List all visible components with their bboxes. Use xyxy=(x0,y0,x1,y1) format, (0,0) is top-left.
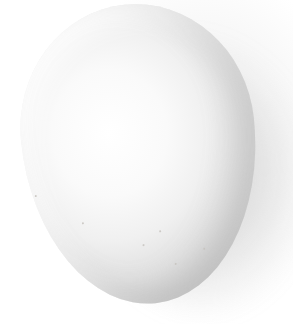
egg-speck xyxy=(82,222,84,224)
egg-speck xyxy=(203,248,205,250)
egg-speck xyxy=(142,244,144,246)
egg-speck xyxy=(35,195,37,197)
photo-scene xyxy=(0,0,293,324)
egg-speck xyxy=(159,230,161,232)
egg-speck xyxy=(175,263,177,265)
